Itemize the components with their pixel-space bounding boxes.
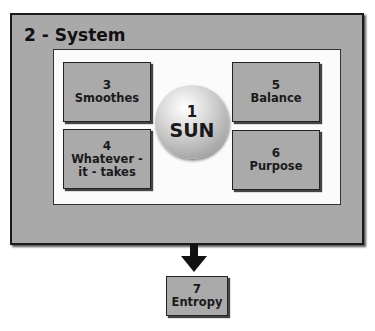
box-purpose: 6 Purpose	[232, 130, 320, 190]
box-whatever-it-takes: 4 Whatever - it - takes	[63, 129, 151, 189]
box-label: Balance	[250, 92, 301, 105]
down-arrow-icon	[179, 244, 209, 274]
box-label: Smoothes	[75, 92, 139, 105]
box-number: 4	[103, 140, 111, 153]
box-label: Entropy	[172, 296, 223, 309]
system-title: 2 - System	[24, 25, 126, 45]
sun-label: SUN	[169, 120, 214, 141]
sun-number: 1	[187, 104, 197, 120]
box-balance: 5 Balance	[232, 62, 320, 122]
box-smoothes: 3 Smoothes	[63, 62, 151, 122]
sun-sphere: 1 SUN	[155, 85, 229, 159]
box-entropy: 7 Entropy	[166, 276, 228, 316]
box-label: Whatever - it - takes	[71, 153, 143, 179]
box-label: Purpose	[249, 160, 302, 173]
